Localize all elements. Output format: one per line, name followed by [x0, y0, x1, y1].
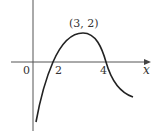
function-graph: 0 2 4 x (3, 2)	[0, 0, 152, 133]
x-axis-label: x	[143, 63, 150, 77]
tick-label-4: 4	[100, 64, 107, 77]
tick-label-2: 2	[55, 64, 62, 77]
function-curve	[36, 33, 133, 122]
origin-label: 0	[23, 64, 30, 77]
max-point-label: (3, 2)	[69, 17, 99, 30]
